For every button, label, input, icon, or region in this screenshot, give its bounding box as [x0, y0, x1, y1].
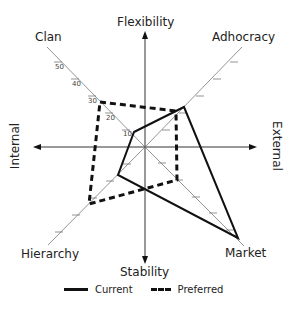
- label-clan: Clan: [35, 31, 62, 43]
- legend: Current Preferred: [64, 284, 241, 295]
- legend-label-current: Current: [95, 284, 133, 295]
- label-stability: Stability: [120, 266, 169, 278]
- legend-item-preferred: Preferred: [151, 284, 224, 295]
- tick-label-10: 10: [123, 131, 132, 138]
- legend-label-preferred: Preferred: [178, 284, 224, 295]
- arrow-down-icon: [142, 256, 148, 264]
- label-market: Market: [225, 247, 266, 259]
- tick-label-40: 40: [72, 81, 81, 88]
- series-current: [118, 107, 238, 238]
- dashed-line-icon: [151, 288, 171, 291]
- tick-label-20: 20: [106, 115, 115, 122]
- label-flexibility: Flexibility: [117, 16, 174, 28]
- label-internal: Internal: [9, 123, 21, 169]
- arrow-up-icon: [142, 31, 148, 39]
- arrow-left-icon: [33, 144, 41, 150]
- label-adhocracy: Adhocracy: [212, 31, 275, 43]
- hierarchy-axis: [48, 147, 145, 245]
- legend-item-current: Current: [64, 284, 133, 295]
- arrow-right-icon: [249, 144, 257, 150]
- label-external: External: [271, 121, 283, 171]
- radar-chart: [0, 0, 289, 310]
- solid-line-icon: [64, 288, 88, 291]
- tick-label-50: 50: [55, 64, 64, 71]
- label-hierarchy: Hierarchy: [21, 248, 79, 260]
- tick-label-30: 30: [88, 98, 97, 105]
